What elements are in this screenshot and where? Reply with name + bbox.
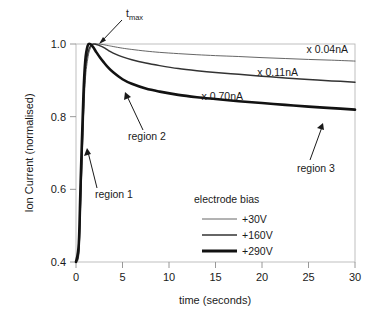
- series-label-290v: x 0.70nA: [202, 90, 243, 102]
- y-axis-title: Ion Current (normalised): [23, 93, 35, 212]
- x-axis-ticks: [76, 262, 355, 268]
- x-tick-6: 25: [302, 271, 314, 283]
- ion-current-decay-chart: 1.0 0.8 0.6 0.4 0 5 10 15 20 25 30 time …: [0, 0, 386, 319]
- legend: electrode bias +30V +160V +290V: [194, 193, 273, 257]
- series-label-30v: x 0.04nA: [307, 43, 348, 55]
- x-tick-5: 20: [256, 271, 268, 283]
- x-axis-tick-labels: 0 5 10 15 20 25 30: [73, 271, 361, 283]
- region-1-label: region 1: [95, 188, 133, 200]
- t-max-annotation: tmax: [99, 7, 143, 44]
- y-tick-2: 0.8: [51, 111, 66, 123]
- y-tick-1: 1.0: [51, 38, 66, 50]
- region-1-annotation: region 1: [84, 148, 133, 200]
- x-tick-2: 5: [119, 271, 125, 283]
- y-axis-ticks: [70, 44, 76, 262]
- region-3-label: region 3: [297, 162, 335, 174]
- series-line-290v: [76, 44, 355, 262]
- x-tick-3: 10: [163, 271, 175, 283]
- y-axis-tick-labels: 1.0 0.8 0.6 0.4: [51, 38, 66, 268]
- series-label-160v: x 0.11nA: [257, 66, 298, 78]
- y-tick-3: 0.6: [51, 183, 66, 195]
- x-tick-1: 0: [73, 271, 79, 283]
- x-tick-7: 30: [349, 271, 361, 283]
- region-3-annotation: region 3: [297, 123, 335, 174]
- legend-label-30v: +30V: [242, 213, 267, 225]
- t-max-label: tmax: [126, 7, 143, 22]
- region-2-annotation: region 2: [124, 92, 166, 142]
- region-2-label: region 2: [128, 130, 166, 142]
- data-series-group: [76, 44, 355, 262]
- x-axis-title: time (seconds): [179, 294, 251, 306]
- legend-title: electrode bias: [194, 193, 259, 205]
- x-tick-4: 15: [209, 271, 221, 283]
- legend-label-160v: +160V: [242, 229, 273, 241]
- legend-label-290v: +290V: [242, 245, 273, 257]
- chart-figure: 1.0 0.8 0.6 0.4 0 5 10 15 20 25 30 time …: [0, 0, 386, 319]
- y-tick-4: 0.4: [51, 256, 66, 268]
